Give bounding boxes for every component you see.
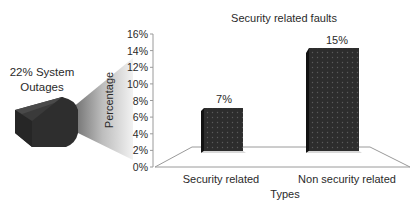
chart-title: Security related faults [231, 12, 337, 24]
svg-text:4%: 4% [133, 128, 148, 140]
y-tick: 16% [127, 28, 153, 40]
y-tick: 6% [133, 111, 153, 123]
y-tick: 4% [133, 128, 153, 140]
y-tick: 12% [127, 61, 153, 73]
bar-value-label: 7% [216, 93, 232, 105]
svg-text:6%: 6% [133, 111, 148, 123]
y-axis-label: Percentage [103, 72, 115, 128]
chart-canvas: 22% System Outages Percentage 0% 2% 4% 6… [0, 0, 413, 213]
svg-text:8%: 8% [133, 95, 148, 107]
bar-security-related [201, 108, 246, 153]
y-tick: 0% [133, 161, 153, 173]
x-axis-label: Types [270, 188, 300, 200]
svg-text:16%: 16% [127, 28, 148, 40]
svg-text:10%: 10% [127, 78, 148, 90]
y-tick: 2% [133, 144, 153, 156]
annotation-line1: 22% System [10, 66, 75, 78]
pie-slice-block [15, 97, 78, 147]
svg-text:14%: 14% [127, 45, 148, 57]
svg-text:12%: 12% [127, 61, 148, 73]
chart-floor [155, 147, 410, 167]
x-category-label: Non security related [298, 173, 396, 185]
annotation-line2: Outages [20, 81, 64, 93]
y-tick: 10% [127, 78, 153, 90]
x-category-label: Security related [183, 173, 259, 185]
y-tick: 8% [133, 95, 153, 107]
y-tick: 14% [127, 45, 153, 57]
svg-text:0%: 0% [133, 161, 148, 173]
svg-text:2%: 2% [133, 144, 148, 156]
bar-value-label: 15% [326, 34, 348, 46]
bar-non-security-related [306, 48, 362, 153]
